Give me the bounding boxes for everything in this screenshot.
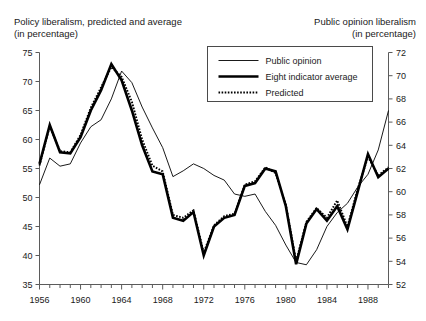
y2-tick-label: 70 — [396, 71, 406, 81]
y-tick-label: 65 — [22, 106, 32, 116]
y-tick-label: 55 — [22, 164, 32, 174]
y2-tick-label: 64 — [396, 141, 406, 151]
x-tick-label: 1984 — [317, 295, 337, 305]
y2-tick-label: 56 — [396, 233, 406, 243]
y2-tick-label: 62 — [396, 164, 406, 174]
x-tick-label: 1956 — [29, 295, 49, 305]
x-tick-label: 1960 — [71, 295, 91, 305]
y2-tick-label: 54 — [396, 257, 406, 267]
x-tick-label: 1972 — [194, 295, 214, 305]
y-tick-label: 70 — [22, 77, 32, 87]
figure-chart: Policy liberalism, predicted and average… — [0, 0, 426, 321]
x-tick-label: 1976 — [235, 295, 255, 305]
y-tick-label: 75 — [22, 48, 32, 58]
y2-tick-label: 72 — [396, 48, 406, 58]
x-tick-label: 1964 — [112, 295, 132, 305]
y2-tick-label: 66 — [396, 117, 406, 127]
x-tick-label: 1980 — [276, 295, 296, 305]
y2-tick-label: 58 — [396, 210, 406, 220]
y-tick-label: 50 — [22, 193, 32, 203]
y2-tick-label: 60 — [396, 187, 406, 197]
legend-label: Public opinion — [266, 56, 322, 66]
y2-tick-label: 52 — [396, 280, 406, 290]
y-tick-label: 45 — [22, 222, 32, 232]
y2-tick-label: 68 — [396, 94, 406, 104]
x-tick-label: 1968 — [153, 295, 173, 305]
legend-label: Predicted — [266, 88, 304, 98]
y-tick-label: 60 — [22, 135, 32, 145]
x-tick-label: 1988 — [358, 295, 378, 305]
legend-label: Eight indicator average — [266, 72, 358, 82]
legend: Public opinionEight indicator averagePre… — [208, 47, 373, 102]
y-tick-label: 35 — [22, 280, 32, 290]
plot-area: 3540455055606570755254565860626466687072… — [0, 0, 426, 321]
y-tick-label: 40 — [22, 251, 32, 261]
